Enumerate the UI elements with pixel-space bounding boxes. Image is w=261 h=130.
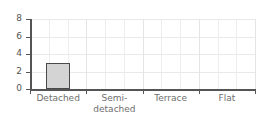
y-tick-label: 0 xyxy=(4,84,22,93)
gridline-vertical xyxy=(236,19,237,89)
gridline-vertical xyxy=(255,19,256,89)
y-tick-label: 2 xyxy=(4,67,22,76)
bar-chart: 02468 DetachedSemi- detachedTerraceFlat xyxy=(0,0,261,130)
gridline-vertical xyxy=(105,19,106,89)
y-tick-mark xyxy=(26,72,30,73)
gridline-vertical xyxy=(218,19,219,89)
gridline-vertical xyxy=(161,19,162,89)
y-tick-label: 6 xyxy=(4,32,22,41)
plot-area xyxy=(30,19,255,89)
gridline-vertical xyxy=(124,19,125,89)
y-tick-mark xyxy=(26,37,30,38)
gridline-vertical xyxy=(199,19,200,89)
x-axis-label-flat: Flat xyxy=(199,93,255,104)
y-tick-label: 8 xyxy=(4,14,22,23)
gridline-vertical xyxy=(180,19,181,89)
x-tick-mark xyxy=(255,89,256,94)
x-axis-label-terrace: Terrace xyxy=(143,93,199,104)
gridline-vertical xyxy=(86,19,87,89)
y-tick-mark xyxy=(26,54,30,55)
x-axis-label-detached: Detached xyxy=(30,93,86,104)
y-tick-mark xyxy=(26,19,30,20)
x-axis-label-semi-detached: Semi- detached xyxy=(86,93,142,115)
bar-detached xyxy=(46,63,70,89)
gridline-vertical xyxy=(143,19,144,89)
y-tick-label: 4 xyxy=(4,49,22,58)
y-axis-line xyxy=(30,19,32,90)
